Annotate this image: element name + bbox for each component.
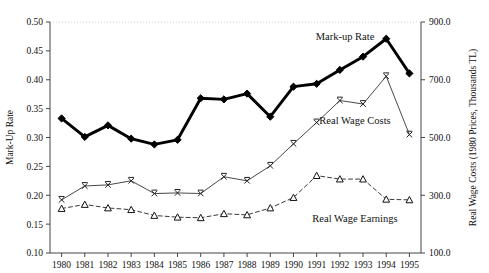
left-axis-tick-label: 0.30 <box>26 133 43 143</box>
x-axis-tick-label: 1989 <box>261 260 280 270</box>
right-axis-title: Real Wage Costs (1980 Prices, Thousands … <box>468 49 479 226</box>
series-line-1 <box>62 76 410 200</box>
left-axis-tick-label: 0.40 <box>26 75 43 85</box>
left-axis-tick-label: 0.45 <box>26 46 43 56</box>
x-axis-tick-label: 1990 <box>284 260 303 270</box>
x-axis-tick-label: 1994 <box>377 260 396 270</box>
x-axis-tick-label: 1992 <box>330 260 349 270</box>
data-point-x <box>337 97 343 103</box>
data-point-diamond <box>220 96 227 103</box>
data-point-triangle <box>81 201 88 207</box>
data-point-triangle <box>360 176 367 182</box>
data-point-x <box>407 131 413 137</box>
annotation-markup-rate: Mark-up Rate <box>316 31 375 42</box>
data-point-x <box>383 73 389 79</box>
x-axis-tick-label: 1981 <box>75 260 94 270</box>
right-axis-tick-label: 100.0 <box>429 248 451 258</box>
right-axis-tick-label: 700.0 <box>429 75 451 85</box>
x-axis-tick-label: 1993 <box>354 260 373 270</box>
data-point-diamond <box>151 141 158 148</box>
data-point-x <box>59 196 65 202</box>
data-point-x <box>128 177 134 183</box>
left-axis-tick-label: 0.35 <box>26 104 43 114</box>
x-axis-tick-label: 1982 <box>98 260 117 270</box>
right-axis-tick-label: 900.0 <box>429 17 451 27</box>
data-point-x <box>291 140 297 146</box>
x-axis-tick-label: 1980 <box>52 260 71 270</box>
x-axis-tick-label: 1991 <box>307 260 326 270</box>
x-axis-tick-label: 1987 <box>214 260 233 270</box>
x-axis-tick-label: 1983 <box>122 260 141 270</box>
data-point-triangle <box>128 206 135 212</box>
left-axis-tick-label: 0.50 <box>26 17 43 27</box>
data-point-triangle <box>221 210 228 216</box>
x-axis-tick-label: 1988 <box>238 260 257 270</box>
right-axis-tick-label: 500.0 <box>429 133 451 143</box>
x-axis-tick-label: 1985 <box>168 260 187 270</box>
series-line-2 <box>62 176 410 218</box>
series-line-0 <box>62 39 410 145</box>
left-axis-tick-label: 0.20 <box>26 191 43 201</box>
left-axis-tick-label: 0.10 <box>26 248 43 258</box>
data-point-triangle <box>313 172 320 178</box>
right-axis-tick-label: 300.0 <box>429 191 451 201</box>
x-axis-tick-label: 1984 <box>145 260 164 270</box>
data-point-triangle <box>267 205 274 211</box>
x-axis-tick-label: 1986 <box>191 260 210 270</box>
data-point-x <box>221 173 227 179</box>
x-axis-tick-label: 1995 <box>400 260 419 270</box>
chart-container: 0.100.150.200.250.300.350.400.450.50100.… <box>0 0 489 273</box>
annotation-real-wage-earnings: Real Wage Earnings <box>312 213 397 224</box>
left-axis-title: Mark-Up Rate <box>5 110 15 165</box>
data-point-x <box>267 162 273 168</box>
left-axis-tick-label: 0.15 <box>26 220 43 230</box>
left-axis-tick-label: 0.25 <box>26 162 43 172</box>
annotation-real-wage-costs: Real Wage Costs <box>319 115 390 126</box>
chart-figure: 0.100.150.200.250.300.350.400.450.50100.… <box>0 0 489 273</box>
